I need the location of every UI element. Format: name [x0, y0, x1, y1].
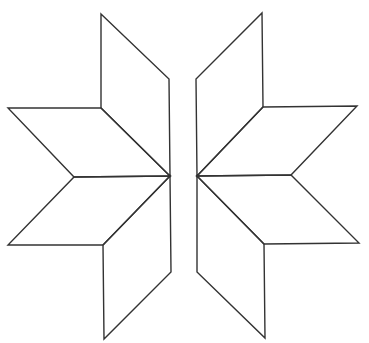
right-half [196, 13, 359, 338]
left-half [8, 14, 171, 339]
left-top-horizontal-rhombus [8, 108, 170, 177]
left-bottom-horizontal-rhombus [8, 176, 170, 245]
right-bottom-vertical-rhombus [197, 176, 265, 338]
right-top-vertical-rhombus [196, 13, 263, 176]
left-bottom-vertical-rhombus [103, 176, 171, 339]
star-diagram [0, 0, 369, 343]
star-svg [0, 0, 369, 343]
right-top-horizontal-rhombus [197, 106, 357, 176]
right-bottom-horizontal-rhombus [197, 175, 359, 244]
left-top-vertical-rhombus [101, 14, 170, 176]
